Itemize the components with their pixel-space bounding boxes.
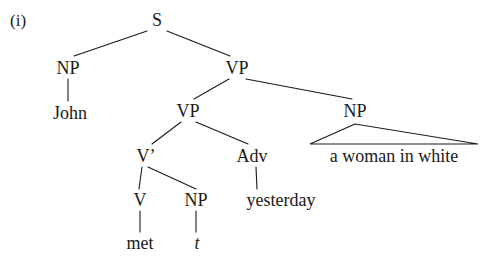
branch-vp-outer-to-np-object [246,79,352,99]
branch-s-to-np-subject [74,31,147,56]
node-np-object: NP [343,102,366,120]
tree-branch-layer [0,0,492,267]
terminal-john: John [53,104,87,122]
node-v: V [134,191,147,209]
branch-s-to-vp-outer [167,31,230,56]
terminal-met: met [127,234,154,252]
syntax-tree-figure: (i) S NP John VP VP NP V’ Adv a woman in… [0,0,492,267]
node-vp-inner: VP [176,102,199,120]
np-object-triangle [310,124,478,144]
branch-v-bar-to-np-trace [148,167,196,189]
terminal-yesterday: yesterday [247,191,316,209]
example-enumerator: (i) [10,12,26,29]
node-s: S [152,11,162,29]
terminal-trace: t [194,234,199,252]
node-vp-outer: VP [225,59,248,77]
node-np-trace: NP [184,191,207,209]
terminal-a-woman-in-white: a woman in white [330,147,458,165]
branch-vp-outer-to-vp-inner [194,79,229,99]
node-np-subject: NP [56,59,79,77]
branch-adv-to-yesterday [256,167,257,189]
node-v-bar: V’ [137,147,156,165]
node-adv: Adv [237,147,268,165]
branch-v-bar-to-v [139,167,142,189]
branch-vp-inner-to-adv [196,122,248,144]
branch-vp-inner-to-v-bar [152,122,181,144]
